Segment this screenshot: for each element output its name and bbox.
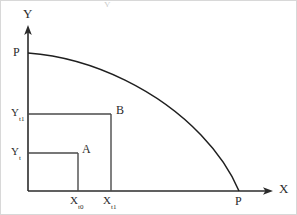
corner-label-b: B bbox=[116, 104, 124, 116]
x-tick-right-base: X bbox=[103, 194, 111, 206]
y-tick-upper-base: Y bbox=[11, 106, 19, 118]
x-tick-label-left: Xt0 bbox=[70, 195, 83, 206]
x-tick-label-right: Xt1 bbox=[103, 195, 116, 206]
diagram-canvas bbox=[1, 1, 297, 215]
x-tick-right-subscript: t1 bbox=[111, 203, 116, 211]
x-tick-left-base: X bbox=[70, 194, 78, 206]
y-tick-upper-subscript: t1 bbox=[19, 115, 24, 123]
figure-container: Y Y X P P Yt1 Yt Xt0 Xt1 A B bbox=[0, 0, 297, 215]
y-tick-lower-base: Y bbox=[11, 145, 19, 157]
x-tick-left-subscript: t0 bbox=[78, 203, 83, 211]
y-tick-label-upper: Yt1 bbox=[11, 107, 24, 118]
frontier-curve bbox=[28, 53, 239, 191]
y-intercept-label-p: P bbox=[13, 46, 20, 58]
x-intercept-label-p: P bbox=[235, 195, 242, 207]
y-tick-lower-subscript: t bbox=[19, 154, 21, 162]
y-tick-label-lower: Yt bbox=[11, 146, 21, 157]
x-axis-label: X bbox=[279, 182, 288, 195]
corner-label-a: A bbox=[82, 143, 91, 155]
y-axis-label: Y bbox=[23, 7, 32, 20]
